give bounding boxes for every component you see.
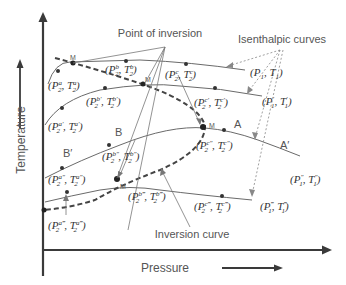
pressure-arrowhead-icon	[274, 265, 283, 272]
state-a-tprime: (Pa‴2, Ta‴2)	[48, 219, 86, 234]
point-a-prime	[60, 106, 64, 110]
state-a: (Pa2, Ta2)	[48, 79, 80, 94]
isenthalpic-curve-3	[45, 128, 300, 178]
x-axis-label: Pressure	[141, 261, 189, 275]
state-b-dprime: (Pb″2, Tb″2)	[102, 150, 140, 165]
isenthalpic-curves-label: Isenthalpic curves	[238, 33, 327, 45]
m-label-3: M	[209, 122, 215, 129]
point-b-dprime	[107, 143, 111, 147]
inlet-state-3: (P″1, T″1)	[290, 173, 321, 188]
region-b-label: B	[115, 126, 122, 138]
point-c-dprime	[222, 128, 226, 132]
joule-thomson-inversion-diagram: Temperature Pressure M M M M	[0, 0, 346, 285]
inlet-state-4: (P‴1, T‴1)	[260, 200, 289, 215]
point-a	[56, 69, 60, 73]
state-c-tprime: (Pc‴2, Tc‴2)	[194, 200, 231, 215]
inlet-state-2: (P′1, T′1)	[262, 95, 292, 110]
state-b-prime: (Pb′2, Tb′2)	[86, 95, 121, 110]
point-c	[184, 62, 188, 66]
inversion-curve-label: Inversion curve	[155, 228, 230, 240]
temperature-arrowhead-icon	[17, 59, 24, 68]
point-a-tprime	[65, 190, 69, 194]
axis-intercept-point	[42, 208, 47, 213]
m-label-1: M	[70, 54, 76, 61]
state-a-dprime: (Pa″2, Ta″2)	[48, 173, 86, 188]
state-a-prime: (Pa′2, Ta′2)	[48, 120, 83, 135]
state-b: (Pb2, Tb2)	[105, 63, 137, 78]
point-b-prime	[103, 86, 107, 90]
point-c-tprime	[220, 194, 224, 198]
point-c-prime	[213, 86, 217, 90]
maximum-point-3	[200, 124, 206, 130]
point-a-dprime	[60, 166, 64, 170]
region-b-prime-label: B′	[63, 147, 72, 159]
inlet-state-1: (P1, T1)	[250, 66, 283, 81]
state-c-prime: (Pc′2, Tc′2)	[194, 96, 228, 111]
y-axis-label: Temperature	[14, 106, 28, 174]
region-a-prime-label: A′	[280, 139, 289, 151]
m-label-4: M	[120, 183, 126, 190]
point-of-inversion-label: Point of inversion	[118, 27, 202, 39]
y-axis-arrowhead-icon	[39, 12, 48, 22]
region-a-label: A	[234, 118, 242, 130]
x-axis-arrowhead-icon	[322, 246, 332, 255]
state-c-dprime: (Pc″2, Tc″2)	[196, 139, 233, 154]
outlet-state-labels: (Pa2, Ta2) (Pb2, Tb2) (Pc2, Tc2) (Pa′2, …	[48, 63, 233, 234]
